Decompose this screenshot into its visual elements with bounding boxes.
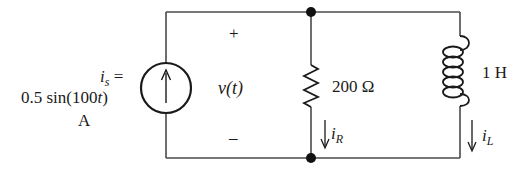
source-unit: A — [78, 112, 90, 129]
voltage-plus-sign: + — [229, 25, 239, 42]
voltage-label: v(t) — [218, 79, 243, 97]
source-equals: = — [114, 67, 124, 86]
voltage-minus-sign: – — [229, 129, 238, 146]
current-source-icon — [141, 63, 191, 113]
resistor-value: 200 Ω — [332, 78, 374, 95]
inductor-current-label: iL — [482, 127, 493, 147]
resistor-current-arrow-icon — [321, 120, 329, 148]
source-current-label: is = — [100, 68, 123, 88]
source-subscript: s — [105, 75, 110, 89]
bottom-node-dot — [306, 153, 316, 163]
inductor-current-arrow-icon — [468, 120, 476, 151]
inductor-icon — [443, 36, 469, 106]
source-expression: 0.5 sin(100t) — [21, 89, 108, 106]
resistor-icon — [304, 65, 318, 107]
top-node-dot — [306, 7, 316, 17]
inductor-value: 1 H — [482, 64, 507, 81]
resistor-current-label: iR — [331, 125, 343, 145]
